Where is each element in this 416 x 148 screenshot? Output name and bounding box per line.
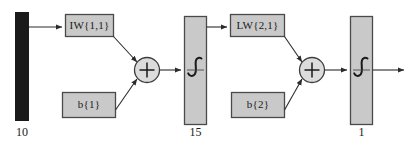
connector-iw-to-sum1 [114, 37, 138, 63]
neural-network-diagram: IW{1,1} b{1} LW{2,1} b{2} 10 15 1 [0, 0, 416, 148]
b1-bias-label: b{1} [62, 99, 116, 110]
connector-lw-to-sum2 [285, 37, 303, 63]
layer2-size-label: 1 [346, 126, 377, 138]
lw-weight-label: LW{2,1} [230, 20, 285, 31]
connector-b1-to-sum1 [116, 79, 138, 110]
input-size-label: 10 [7, 126, 37, 138]
connector-b2-to-sum2 [285, 79, 303, 110]
layer1-size-label: 15 [180, 126, 211, 138]
input-vector-bar [16, 13, 29, 121]
iw-weight-label: IW{1,1} [65, 20, 114, 31]
b2-bias-label: b{2} [231, 99, 285, 110]
